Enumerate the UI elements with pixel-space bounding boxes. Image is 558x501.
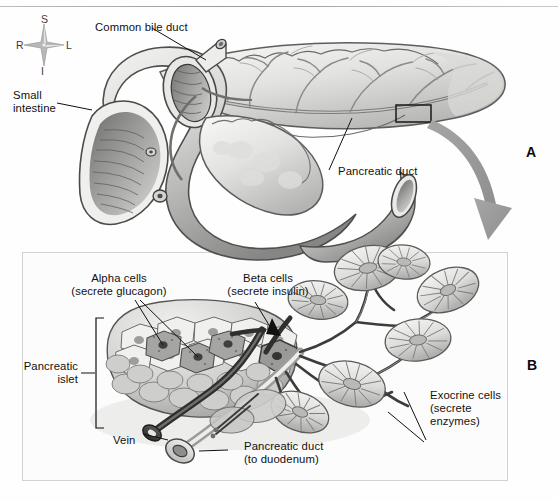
compass-label-left: L [66, 39, 72, 51]
label-exocrine-cells-line2: (secrete [430, 402, 472, 415]
label-alpha-cells-line2: (secrete glucagon) [54, 285, 184, 298]
panel-a-artwork [57, 28, 512, 262]
magnification-arrow-head [474, 198, 512, 240]
label-beta-cells-line2: (secrete insulin) [208, 285, 328, 298]
label-small-intestine-line2: intestine [13, 102, 56, 115]
label-vein: Vein [113, 434, 135, 447]
panel-marker-b: B [527, 357, 537, 373]
label-exocrine-cells-line3: enzymes) [430, 415, 480, 428]
label-small-intestine-line1: Small [13, 89, 42, 102]
label-beta-cells-line1: Beta cells [208, 272, 328, 285]
label-pancreatic-duct-b-line2: (to duodenum) [244, 453, 319, 466]
label-exocrine-cells-line1: Exocrine cells [430, 389, 501, 402]
orientation-compass-icon [24, 24, 64, 66]
label-pancreatic-duct-b-line1: Pancreatic duct [244, 440, 323, 453]
label-pancreatic-islet-line2: islet [0, 373, 78, 386]
compass-label-inferior: I [41, 65, 44, 77]
compass-label-superior: S [41, 13, 48, 25]
compass-label-right: R [16, 39, 24, 51]
label-pancreatic-islet-line1: Pancreatic [0, 360, 78, 373]
label-common-bile-duct: Common bile duct [95, 21, 188, 34]
label-alpha-cells-line1: Alpha cells [54, 272, 184, 285]
anatomy-figure: S I R L Common bile duct Small intestine… [0, 0, 558, 501]
magnification-arrow-shaft [427, 120, 496, 206]
panel-marker-a: A [526, 144, 536, 160]
label-pancreatic-duct-a: Pancreatic duct [338, 165, 417, 178]
